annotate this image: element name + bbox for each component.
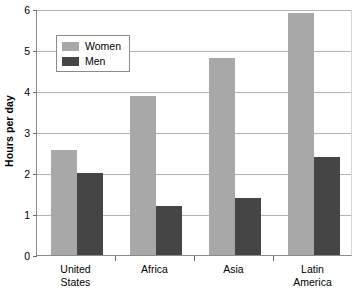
y-axis-title: Hours per day (0, 0, 18, 262)
legend-entry-men: Men (62, 55, 121, 67)
x-tick-mark (273, 256, 274, 261)
x-tick-label: Asia (223, 263, 243, 276)
y-tick-label: 3 (24, 127, 30, 139)
y-tick-mark (33, 10, 37, 11)
y-tick-label: 4 (24, 86, 30, 98)
bar-group (195, 11, 274, 255)
x-tick-mark (115, 256, 116, 261)
x-tick-label-line: Latin (293, 263, 332, 276)
y-tick-label: 6 (24, 4, 30, 16)
y-tick-mark (33, 92, 37, 93)
legend: WomenMen (56, 35, 130, 72)
legend-label: Women (85, 40, 121, 52)
y-tick-mark (33, 51, 37, 52)
y-tick-mark (33, 215, 37, 216)
y-tick-mark (33, 133, 37, 134)
y-tick-label: 1 (24, 209, 30, 221)
bar-group (274, 11, 353, 255)
bar-women (209, 58, 235, 255)
legend-label: Men (85, 55, 105, 67)
legend-entry-women: Women (62, 40, 121, 52)
x-tick-label-line: Africa (141, 263, 168, 276)
x-axis: UnitedStatesAfricaAsiaLatinAmerica (36, 256, 352, 299)
x-tick-mark (194, 256, 195, 261)
x-tick-label: LatinAmerica (293, 263, 332, 288)
y-axis-tick-labels: 0123456 (18, 10, 33, 256)
bar-women (130, 96, 156, 255)
bar-chart: Hours per day 0123456 UnitedStatesAfrica… (0, 0, 360, 299)
bar-men (156, 206, 182, 255)
legend-swatch-women (62, 42, 79, 51)
x-tick-label-line: United (60, 263, 90, 276)
y-tick-label: 5 (24, 45, 30, 57)
x-tick-label-line: Asia (223, 263, 243, 276)
bar-men (235, 198, 261, 255)
y-tick-label: 2 (24, 168, 30, 180)
y-tick-label: 0 (24, 250, 30, 262)
bar-men (77, 173, 103, 255)
bar-women (288, 13, 314, 255)
y-axis-title-text: Hours per day (3, 95, 15, 167)
x-tick-label-line: States (60, 276, 90, 289)
bar-women (51, 150, 77, 255)
x-tick-label: UnitedStates (60, 263, 90, 288)
x-tick-label-line: America (293, 276, 332, 289)
y-tick-mark (33, 174, 37, 175)
legend-swatch-men (62, 57, 79, 66)
bar-men (314, 157, 340, 255)
x-tick-label: Africa (141, 263, 168, 276)
